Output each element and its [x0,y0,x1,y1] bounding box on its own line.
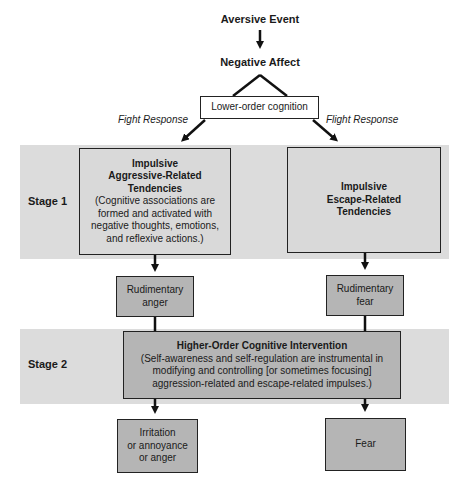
irritation-1: Irritation [139,427,175,440]
escape-title-3: Tendencies [337,206,391,219]
higher-order-desc-2: modifying and controlling [or sometimes … [153,365,372,378]
aggressive-desc-1: (Cognitive associations are [95,195,215,208]
lower-order-cognition-box: Lower-order cognition [200,96,319,119]
stage2-label: Stage 2 [28,358,67,370]
aggressive-title-2: Aggressive-Related [108,170,201,183]
rudimentary-anger-box: Rudimentary anger [116,276,194,317]
escape-tendencies-box: Impulsive Escape-Related Tendencies [287,147,441,253]
aggressive-title-3: Tendencies [128,183,182,196]
flight-response-label: Flight Response [326,114,398,125]
rudimentary-fear-2: fear [356,296,373,309]
irritation-3: or anger [139,452,176,465]
aggressive-desc-4: and reflexive actions.) [106,233,203,246]
higher-order-desc-1: (Self-awareness and self-regulation are … [141,353,383,366]
escape-title-2: Escape-Related [327,194,401,207]
irritation-box: Irritation or annoyance or anger [117,419,198,473]
aggressive-desc-2: formed and activated with [98,208,212,221]
fear-text: Fear [355,438,376,451]
lower-order-cognition-text: Lower-order cognition [211,101,308,114]
stage1-label: Stage 1 [28,195,67,207]
rudimentary-fear-box: Rudimentary fear [326,275,404,316]
rudimentary-anger-2: anger [142,297,168,310]
higher-order-intervention-box: Higher-Order Cognitive Intervention (Sel… [123,331,401,399]
fight-response-label: Fight Response [118,114,188,125]
fear-box: Fear [325,418,406,471]
aggressive-title-1: Impulsive [132,158,178,171]
escape-title-1: Impulsive [341,181,387,194]
rudimentary-fear-1: Rudimentary [337,283,394,296]
aversive-event-label: Aversive Event [180,13,340,25]
higher-order-desc-3: aggression-related and escape-related im… [152,378,372,391]
rudimentary-anger-1: Rudimentary [127,284,184,297]
aggressive-tendencies-box: Impulsive Aggressive-Related Tendencies … [79,148,231,255]
irritation-2: or annoyance [127,440,188,453]
higher-order-title: Higher-Order Cognitive Intervention [177,340,348,353]
negative-affect-label: Negative Affect [180,56,340,68]
aggressive-desc-3: negative thoughts, emotions, [91,220,219,233]
